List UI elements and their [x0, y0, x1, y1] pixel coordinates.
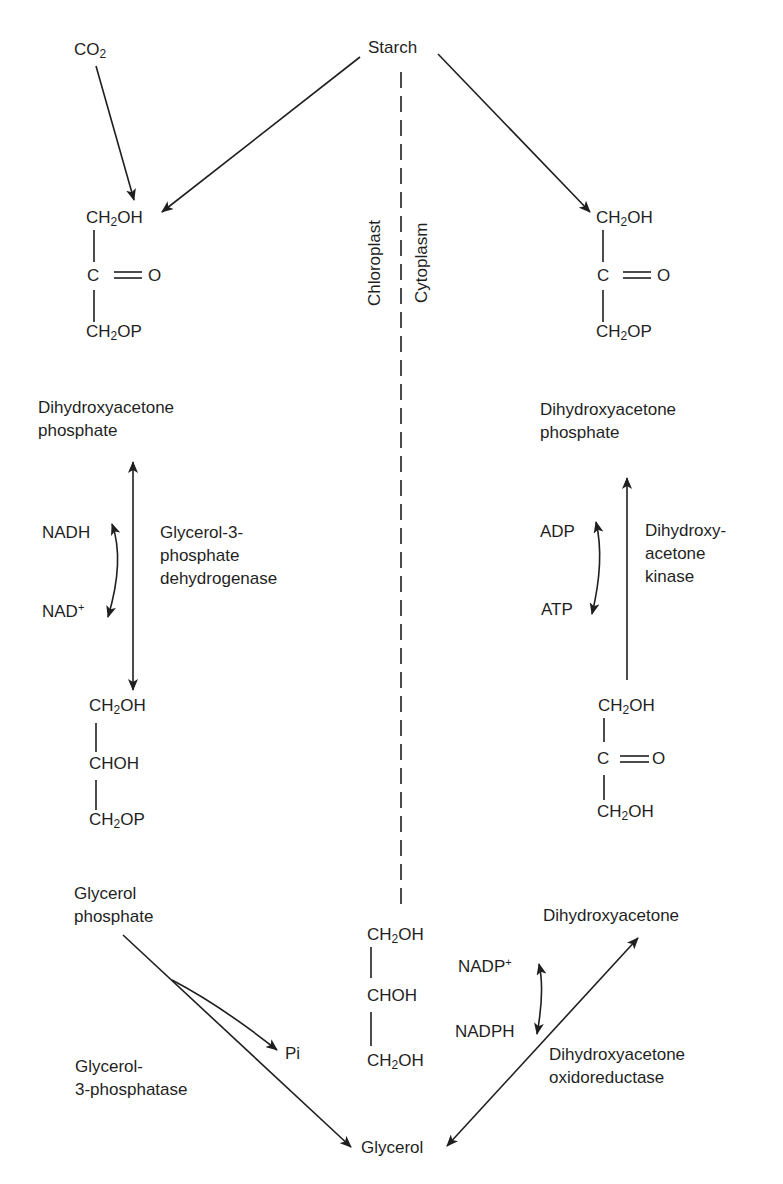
- cofactor-nadh: NADH: [42, 521, 90, 544]
- cofactor-nadp-plus: NADP+: [458, 955, 512, 978]
- right-dhap-row2-oxygen: O: [657, 264, 670, 287]
- enzyme-dha-kinase: Dihydroxy- acetone kinase: [645, 519, 726, 588]
- right-dhap-name: Dihydroxyacetonephosphate: [540, 398, 676, 444]
- arrow-adp-atp: [592, 522, 600, 614]
- enzyme-g3-phosphatase: Glycerol- 3-phosphatase: [75, 1055, 187, 1101]
- pathway-diagram: CO2 Starch Chloroplast Cytoplasm CH2OH C…: [0, 0, 783, 1184]
- right-dhap-row3: CH2OP: [596, 320, 652, 343]
- node-glycerol: Glycerol: [361, 1136, 423, 1159]
- arrow-nadh-nad: [108, 524, 118, 617]
- arrow-to-pi: [172, 980, 277, 1050]
- glycerol-row1: CH2OH: [367, 923, 424, 946]
- cofactor-atp: ATP: [541, 598, 573, 621]
- node-co2: CO2: [74, 38, 106, 61]
- left-dhap-row3: CH2OP: [86, 320, 142, 343]
- right-dhap-row1: CH2OH: [596, 206, 653, 229]
- left-dhap-name: Dihydroxyacetonephosphate: [38, 396, 174, 442]
- node-glycerol-phosphate: Glycerolphosphate: [74, 882, 153, 928]
- left-g3p-row2: CHOH: [89, 752, 139, 775]
- right-dha-row3: CH2OH: [597, 800, 654, 823]
- glycerol-row2: CHOH: [367, 984, 417, 1007]
- right-dhap-row2-carbon: C: [597, 264, 609, 287]
- label-chloroplast: Chloroplast: [363, 220, 386, 306]
- enzyme-dha-oxidoreductase: Dihydroxyacetone oxidoreductase: [549, 1043, 685, 1089]
- arrow-glycerolphosphate-to-glycerol: [123, 935, 351, 1147]
- arrow-nadp-nadph: [537, 964, 542, 1034]
- cofactor-nadph: NADPH: [455, 1020, 515, 1043]
- arrow-starch-to-right-dhap: [438, 54, 590, 212]
- node-starch: Starch: [368, 36, 417, 59]
- label-cytoplasm: Cytoplasm: [410, 223, 433, 303]
- right-dha-row2-oxygen: O: [652, 747, 665, 770]
- cofactor-adp: ADP: [540, 520, 575, 543]
- left-g3p-row3: CH2OP: [89, 808, 145, 831]
- left-dhap-row2-carbon: C: [87, 264, 99, 287]
- enzyme-g3p-dehydrogenase: Glycerol-3- phosphate dehydrogenase: [160, 521, 277, 590]
- left-g3p-row1: CH2OH: [89, 694, 146, 717]
- left-dhap-row1: CH2OH: [86, 206, 143, 229]
- right-dha-row2-carbon: C: [597, 747, 609, 770]
- arrow-co2-to-dhap: [96, 66, 134, 200]
- left-dhap-row2-oxygen: O: [148, 264, 161, 287]
- node-pi: Pi: [285, 1042, 300, 1065]
- node-dihydroxyacetone: Dihydroxyacetone: [543, 904, 679, 927]
- cofactor-nad-plus: NAD+: [42, 600, 84, 623]
- arrow-starch-to-left-dhap: [162, 57, 360, 212]
- glycerol-row3: CH2OH: [367, 1049, 424, 1072]
- right-dha-row1: CH2OH: [598, 694, 655, 717]
